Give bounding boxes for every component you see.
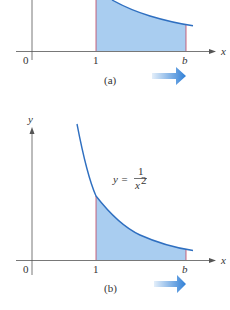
shaded-region-a <box>96 0 186 51</box>
x-axis-arrowhead-b <box>209 258 216 263</box>
panel-b: y x 0 1 b y = 1 x 2 (b) <box>16 113 226 295</box>
figure: x 0 1 b (a) y x 0 1 b y = 1 x 2 <box>0 0 230 310</box>
y-axis-arrowhead-b <box>30 127 35 134</box>
function-exponent: 2 <box>141 174 147 186</box>
shaded-region-b <box>96 196 186 260</box>
tick-label-0-b: 0 <box>23 263 29 275</box>
function-denominator: x <box>134 179 140 191</box>
tick-label-0-a: 0 <box>23 54 29 66</box>
tick-label-1-b: 1 <box>93 263 99 275</box>
x-axis-label-b: x <box>220 254 226 266</box>
direction-arrow-b <box>154 275 186 293</box>
tick-label-b-b: b <box>182 263 188 275</box>
caption-b: (b) <box>104 282 117 295</box>
direction-arrow-a <box>152 67 186 85</box>
x-axis-label-a: x <box>220 45 226 57</box>
tick-label-b-a: b <box>182 54 188 66</box>
x-axis-arrowhead-a <box>209 49 216 54</box>
panel-a: x 0 1 b (a) <box>16 0 226 87</box>
function-label-b: y = 1 x 2 <box>112 165 147 191</box>
caption-a: (a) <box>104 74 117 87</box>
tick-label-1-a: 1 <box>93 54 99 66</box>
y-axis-label-b: y <box>27 113 33 125</box>
function-lhs: y = <box>112 173 128 185</box>
